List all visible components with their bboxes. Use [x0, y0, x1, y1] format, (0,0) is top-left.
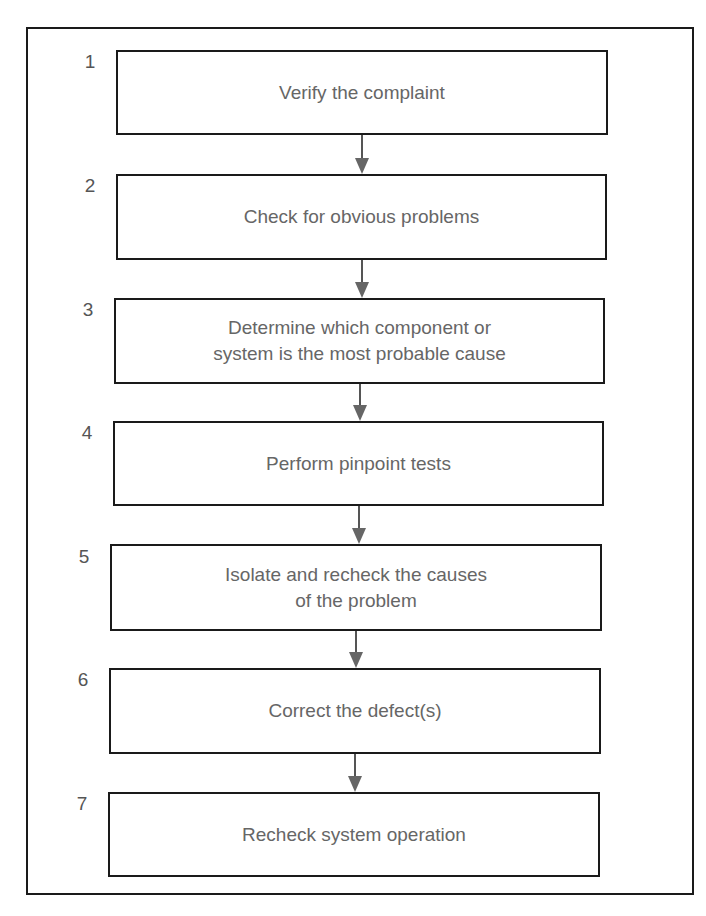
- down-arrow-icon: [355, 135, 369, 174]
- flowchart-step-box: Isolate and recheck the causes of the pr…: [110, 544, 602, 631]
- step-label: Perform pinpoint tests: [266, 451, 451, 477]
- flowchart-step-box: Determine which component or system is t…: [114, 298, 605, 384]
- step-number: 1: [80, 51, 100, 73]
- flowchart-step-box: Verify the complaint: [116, 50, 608, 135]
- flowchart-step-box: Recheck system operation: [108, 792, 600, 877]
- step-number: 7: [72, 793, 92, 815]
- flowchart-step-box: Perform pinpoint tests: [113, 421, 604, 506]
- step-label: Correct the defect(s): [268, 698, 441, 724]
- down-arrow-icon: [353, 384, 367, 421]
- flowchart-step-box: Correct the defect(s): [109, 668, 601, 754]
- step-label: Verify the complaint: [279, 80, 445, 106]
- down-arrow-icon: [348, 754, 362, 792]
- step-number: 3: [78, 299, 98, 321]
- step-label: Determine which component or system is t…: [213, 315, 506, 367]
- step-number: 5: [74, 546, 94, 568]
- step-number: 6: [73, 669, 93, 691]
- step-number: 2: [80, 175, 100, 197]
- down-arrow-icon: [352, 506, 366, 544]
- flowchart-step-box: Check for obvious problems: [116, 174, 607, 260]
- step-number: 4: [77, 422, 97, 444]
- step-label: Check for obvious problems: [244, 204, 480, 230]
- step-label: Isolate and recheck the causes of the pr…: [225, 562, 487, 614]
- step-label: Recheck system operation: [242, 822, 466, 848]
- down-arrow-icon: [349, 631, 363, 668]
- down-arrow-icon: [355, 260, 369, 298]
